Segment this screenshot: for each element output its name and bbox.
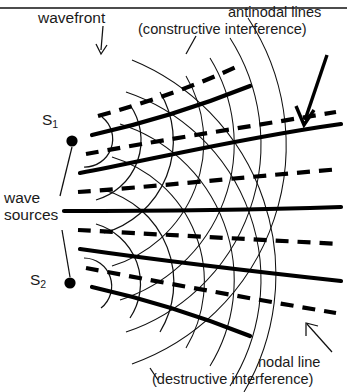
label-antinodal-lines: antinodal lines [228, 5, 321, 21]
label-source-s1-letter: S [42, 111, 52, 128]
wave-interference-diagram: wavefront antinodal lines (constructive … [0, 0, 347, 392]
label-constructive-interference: (constructive interference) [138, 22, 307, 38]
label-source-s1: S1 [42, 112, 58, 130]
antinodal-leader [305, 55, 327, 120]
wave-sources-leader-s1 [60, 147, 72, 196]
label-nodal-line: nodal line [258, 355, 320, 371]
label-source-s2-letter: S [30, 271, 40, 288]
label-wave-sources-line1: wave [4, 190, 58, 207]
source-dot-s1 [66, 135, 77, 146]
label-destructive-interference: (destructive interference) [152, 372, 313, 388]
wavefront-leader [101, 26, 103, 50]
label-source-s1-subscript: 1 [52, 118, 58, 130]
source-dot-s2 [64, 277, 75, 288]
constructive-leader [186, 36, 196, 54]
label-source-s2: S2 [30, 272, 46, 290]
label-wave-sources: wave sources [4, 190, 58, 223]
wave-sources-leader-s2 [62, 230, 70, 277]
label-wave-sources-line2: sources [4, 207, 58, 224]
label-wavefront: wavefront [38, 10, 105, 27]
nodal-leader [307, 324, 332, 352]
label-source-s2-subscript: 2 [40, 278, 46, 290]
